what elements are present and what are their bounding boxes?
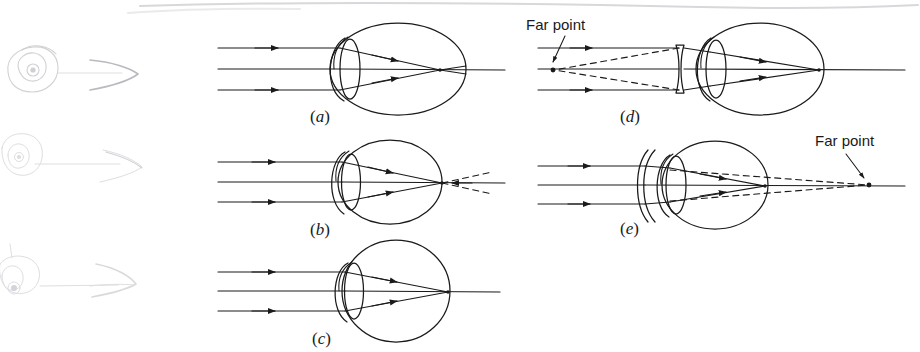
- ghost-sketch-2: [2, 134, 142, 182]
- virtual-ray-bottom-d: [554, 70, 679, 90]
- optic-axis-b: [342, 182, 505, 183]
- far-point-leader-e: [846, 154, 864, 178]
- optics-figure: (a) (b): [0, 0, 920, 352]
- virtual-ray-top-e: [670, 170, 868, 185]
- refracted-arrow-bottom-b: [368, 192, 393, 197]
- refracted-arrow-top-b: [368, 167, 393, 173]
- focal-point-c: [446, 290, 450, 294]
- far-point-marker-d: [551, 68, 556, 73]
- refracted-arrow-bottom-c: [372, 301, 397, 306]
- far-point-leader-d: [553, 36, 565, 62]
- optics-figure-canvas: (a) (b): [0, 0, 920, 352]
- focal-point-a: [438, 68, 442, 72]
- panel-e: Far point (e): [538, 132, 905, 238]
- post-focus-bottom-a: [440, 70, 466, 74]
- virtual-ray-top-b: [442, 172, 492, 183]
- far-point-marker-e: [867, 183, 872, 188]
- scan-edge-artifact: [128, 3, 918, 13]
- panel-b: (b): [218, 140, 505, 239]
- refracted-arrow-bottom-d: [740, 77, 766, 81]
- refracted-arrow-bottom-a: [372, 78, 398, 83]
- panel-d: Far point (d): [526, 16, 905, 126]
- focal-point-d: [817, 68, 821, 72]
- ghost-sketch-3: [0, 244, 136, 297]
- panel-label-a: (a): [310, 107, 330, 126]
- optic-axis-c: [345, 291, 500, 292]
- refracted-arrow-bottom-e: [700, 192, 726, 196]
- panel-label-b: (b): [310, 220, 330, 239]
- far-point-label-e: Far point: [815, 132, 875, 149]
- panel-label-d: (d): [620, 107, 640, 126]
- panel-c: (c): [218, 240, 500, 348]
- lens-exit-bottom-d: [684, 86, 710, 90]
- refracted-arrow-top-c: [372, 277, 397, 282]
- optic-axis-e: [645, 185, 905, 186]
- refracted-arrow-top-d: [740, 57, 766, 62]
- virtual-ray-bottom-e: [670, 185, 868, 201]
- corrective-lens-converging-e: [638, 150, 656, 222]
- panel-label-e: (e): [620, 219, 639, 238]
- refracted-arrow-top-a: [372, 55, 398, 61]
- virtual-ray-bottom-b: [442, 183, 492, 194]
- focal-point-b: [440, 181, 444, 185]
- optic-axis-a: [340, 69, 505, 70]
- far-point-label-d: Far point: [526, 16, 586, 33]
- virtual-ray-top-d: [554, 48, 679, 70]
- optic-axis-d: [684, 69, 905, 70]
- panel-label-c: (c): [312, 329, 331, 348]
- refracted-arrow-top-e: [700, 174, 726, 179]
- focal-point-e: [763, 184, 767, 188]
- ghost-sketch-1: [8, 46, 138, 92]
- panel-a: (a): [218, 23, 505, 126]
- lens-exit-top-d: [684, 48, 710, 52]
